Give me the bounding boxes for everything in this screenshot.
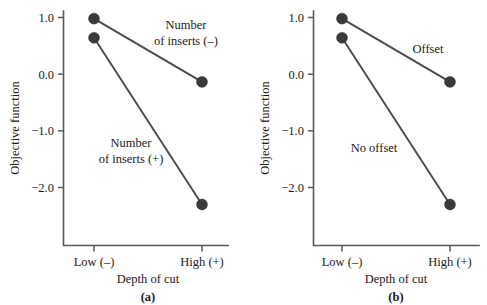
panel-b-ylabel: Objective function xyxy=(258,81,272,175)
panel-b-annotation-lower: No offset xyxy=(351,141,398,155)
panel-a-ytick-label-1: 0.0 xyxy=(38,68,54,82)
panel-a-xtick-label-0: Low (–) xyxy=(74,255,115,269)
panel-b-series-line-lower xyxy=(342,38,450,205)
panel-a-ylabel: Objective function xyxy=(8,81,22,175)
panel-a-annotation-upper-line2: of inserts (–) xyxy=(154,34,218,48)
panel-a-xlabel: Depth of cut xyxy=(117,272,180,286)
panel-a-xtick-label-1: High (+) xyxy=(180,255,224,269)
panel-a-ytick-label-0: 1.0 xyxy=(38,11,54,25)
panel-b-xtick-label-1: High (+) xyxy=(428,255,472,269)
panel-b-xlabel: Depth of cut xyxy=(365,272,428,286)
panel-b-ytick-label-3: −2.0 xyxy=(281,181,304,195)
panel-a-svg: 1.0 0.0 −1.0 −2.0 Low (–) High (+) Depth… xyxy=(0,0,243,305)
panel-b-ytick-label-2: −1.0 xyxy=(281,124,304,138)
panel-a-caption: (a) xyxy=(141,290,156,304)
panel-a-marker-upper-high xyxy=(197,77,208,88)
panel-b-marker-lower-high xyxy=(445,199,456,210)
panel-b-ytick-label-0: 1.0 xyxy=(288,11,304,25)
panel-b-annotation-upper: Offset xyxy=(412,42,444,56)
panel-a-annotation-lower-line2: of inserts (+) xyxy=(99,152,164,166)
panel-b-marker-upper-low xyxy=(337,13,348,24)
panel-b-xtick-label-0: Low (–) xyxy=(322,255,363,269)
panel-a-ytick-label-3: −2.0 xyxy=(31,181,54,195)
panel-a-annotation-lower-line1: Number xyxy=(111,136,153,150)
panel-a-marker-lower-high xyxy=(197,199,208,210)
panel-b-svg: 1.0 0.0 −1.0 −2.0 Low (–) High (+) Depth… xyxy=(243,0,487,305)
panel-a-ytick-label-2: −1.0 xyxy=(31,124,54,138)
panel-a: 1.0 0.0 −1.0 −2.0 Low (–) High (+) Depth… xyxy=(0,0,243,305)
panel-b-axes xyxy=(314,11,480,246)
interaction-plot-figure: 1.0 0.0 −1.0 −2.0 Low (–) High (+) Depth… xyxy=(0,0,487,305)
panel-b-ytick-label-1: 0.0 xyxy=(288,68,304,82)
panel-a-marker-upper-low xyxy=(89,13,100,24)
panel-a-marker-lower-low xyxy=(89,32,100,43)
panel-a-series-line-lower xyxy=(94,38,202,205)
panel-a-annotation-upper-line1: Number xyxy=(166,18,208,32)
panel-b-marker-lower-low xyxy=(337,32,348,43)
panel-b: 1.0 0.0 −1.0 −2.0 Low (–) High (+) Depth… xyxy=(243,0,486,305)
panel-b-marker-upper-high xyxy=(445,77,456,88)
panel-b-caption: (b) xyxy=(388,290,403,304)
